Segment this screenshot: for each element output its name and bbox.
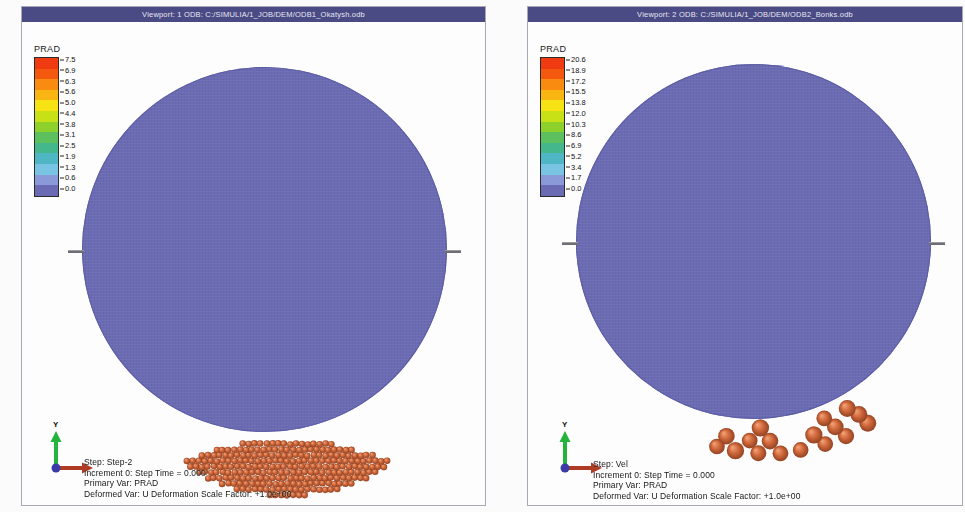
legend-color-segment (35, 122, 58, 133)
legend-color-segment (541, 132, 564, 143)
legend-title: PRAD (34, 44, 108, 54)
legend-color-segment (35, 164, 58, 175)
legend-tick-label: 18.9 (571, 66, 586, 73)
legend-color-segment (541, 111, 564, 122)
legend-tick-label: 6.3 (65, 77, 75, 84)
legend-tick-label: 13.8 (571, 99, 586, 106)
legend-color-segment (541, 69, 564, 80)
info-line-step: Step: Step-2 (84, 457, 292, 468)
drum-left-tick-icon (68, 250, 84, 253)
legend-tick-label: 3.8 (65, 120, 75, 127)
legend-tick-label: 8.6 (571, 131, 581, 138)
legend-color-segment (541, 143, 564, 154)
info-line-deformed-var: Deformed Var: U Deformation Scale Factor… (84, 489, 292, 500)
drum-left-tick-icon (562, 242, 578, 245)
drum-right-tick-icon (445, 250, 461, 253)
info-line-deformed-var: Deformed Var: U Deformation Scale Factor… (593, 491, 801, 502)
legend-color-segment (35, 143, 58, 154)
legend-tick-label: 0.0 (571, 185, 581, 192)
legend-color-segment (35, 100, 58, 111)
legend-color-segment (35, 58, 58, 69)
axis-label-y: Y (562, 420, 567, 429)
legend-tick-label: 20.6 (571, 56, 586, 63)
legend-color-segment (35, 111, 58, 122)
legend-color-segment (35, 153, 58, 164)
info-line-step: Step: Vel (593, 459, 801, 470)
viewport-2-title: Viewport: 2 ODB: C:/SIMULIA/1_JOB/DEM/OD… (637, 10, 853, 19)
legend-color-segment (541, 185, 564, 196)
legend-tick-label: 0.0 (65, 185, 75, 192)
legend-color-segment (541, 175, 564, 186)
legend-color-segment (541, 164, 564, 175)
legend-color-segment (35, 90, 58, 101)
legend-color-segment (35, 79, 58, 90)
legend-color-segment (541, 100, 564, 111)
legend-tick-label: 4.4 (65, 109, 75, 116)
legend-color-segment (541, 79, 564, 90)
legend-tick-label: 5.6 (65, 88, 75, 95)
viewport-2-canvas[interactable]: PRAD 20.618.917.215.513.812.010.38.66.95… (528, 22, 962, 505)
viewport-1-info-block: Step: Step-2 Increment 0: Step Time = 0.… (84, 457, 292, 499)
info-line-increment: Increment 0: Step Time = 0.000 (593, 470, 801, 481)
legend-tick-label: 5.2 (571, 152, 581, 159)
legend-tick-label: 6.9 (65, 66, 75, 73)
legend-color-segment (35, 185, 58, 196)
legend-tick-label: 10.3 (571, 120, 586, 127)
legend-tick-label: 1.9 (65, 152, 75, 159)
drum-circle (82, 67, 447, 432)
legend-tick-label: 2.5 (65, 142, 75, 149)
legend-color-segment (541, 58, 564, 69)
legend-tick-label: 15.5 (571, 88, 586, 95)
legend-tick-label: 6.9 (571, 142, 581, 149)
legend-colorbar (540, 57, 565, 197)
info-line-primary-var: Primary Var: PRAD (593, 480, 801, 491)
legend-color-segment (35, 132, 58, 143)
info-line-increment: Increment 0: Step Time = 0.000 (84, 468, 292, 479)
viewport-1[interactable]: Viewport: 1 ODB: C:/SIMULIA/1_JOB/DEM/OD… (21, 6, 486, 506)
legend-color-segment (541, 90, 564, 101)
axis-label-y: Y (53, 420, 58, 429)
legend-tick-label: 3.4 (571, 163, 581, 170)
legend-color-segment (541, 122, 564, 133)
viewport-2[interactable]: Viewport: 2 ODB: C:/SIMULIA/1_JOB/DEM/OD… (527, 6, 963, 506)
legend-tick-label: 0.6 (65, 174, 75, 181)
legend-tick-label: 1.7 (571, 174, 581, 181)
legend-tick-label: 7.5 (65, 56, 75, 63)
viewport-1-title: Viewport: 1 ODB: C:/SIMULIA/1_JOB/DEM/OD… (142, 10, 365, 19)
drum-circle (576, 64, 931, 419)
legend-color-segment (35, 175, 58, 186)
viewport-2-titlebar[interactable]: Viewport: 2 ODB: C:/SIMULIA/1_JOB/DEM/OD… (528, 7, 962, 22)
particle-bed (638, 397, 898, 467)
drum-right-tick-icon (929, 242, 945, 245)
legend-tick-label: 3.1 (65, 131, 75, 138)
legend-tick-label: 1.3 (65, 163, 75, 170)
legend-tick-label: 17.2 (571, 77, 586, 84)
application-window: Viewport: 1 ODB: C:/SIMULIA/1_JOB/DEM/OD… (0, 0, 965, 512)
legend-color-segment (541, 153, 564, 164)
legend-color-segment (35, 69, 58, 80)
legend-colorbar (34, 57, 59, 197)
info-line-primary-var: Primary Var: PRAD (84, 478, 292, 489)
viewport-1-canvas[interactable]: PRAD 7.56.96.35.65.04.43.83.12.51.91.30.… (22, 22, 485, 505)
legend-title: PRAD (540, 44, 614, 54)
legend-tick-label: 12.0 (571, 109, 586, 116)
legend-tick-label: 5.0 (65, 99, 75, 106)
viewport-2-info-block: Step: Vel Increment 0: Step Time = 0.000… (593, 459, 801, 501)
viewport-1-titlebar[interactable]: Viewport: 1 ODB: C:/SIMULIA/1_JOB/DEM/OD… (22, 7, 485, 22)
